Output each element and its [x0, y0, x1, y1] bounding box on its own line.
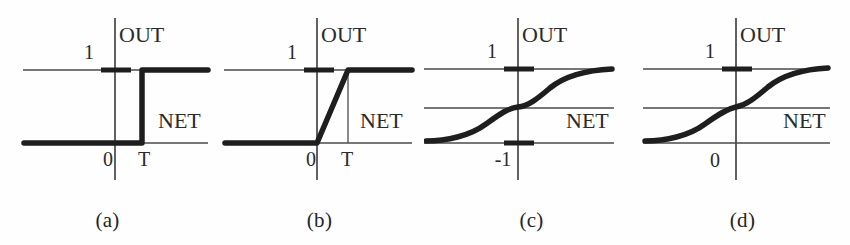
tick-label-1: 1 [84, 41, 94, 63]
tick-label-1: 1 [287, 41, 297, 63]
x-axis-label: NET [783, 108, 826, 133]
y-axis-label: OUT [522, 22, 568, 47]
x-axis-label: NET [158, 108, 201, 133]
panel-b-plot: OUT NET 1 0 T [212, 0, 427, 195]
panel-a-plot: OUT NET 1 0 T [0, 0, 215, 195]
x-axis-label: NET [566, 108, 609, 133]
y-axis-label: OUT [119, 22, 165, 47]
tick-label-0: 0 [103, 148, 113, 170]
panel-caption-d: (d) [635, 208, 850, 233]
y-axis-label: OUT [740, 22, 786, 47]
panel-c: OUT NET 1 -1 (c) [424, 0, 639, 245]
panel-d-plot: OUT NET 1 0 [635, 0, 850, 195]
tick-label-0: 0 [710, 149, 720, 171]
activation-functions-figure: OUT NET 1 0 T (a) OUT NET 1 0 T (b) [0, 0, 850, 245]
tick-label-1: 1 [705, 40, 715, 62]
tick-label-threshold: T [138, 148, 150, 170]
tick-label-0: 0 [306, 148, 316, 170]
panel-c-plot: OUT NET 1 -1 [424, 0, 639, 195]
x-axis-label: NET [360, 108, 403, 133]
tick-label-minus-1: -1 [495, 148, 512, 170]
tick-label-threshold: T [341, 148, 353, 170]
panel-a: OUT NET 1 0 T (a) [0, 0, 215, 245]
panel-d: OUT NET 1 0 (d) [635, 0, 850, 245]
y-axis-label: OUT [321, 22, 367, 47]
tick-label-1: 1 [487, 40, 497, 62]
panel-b: OUT NET 1 0 T (b) [212, 0, 427, 245]
